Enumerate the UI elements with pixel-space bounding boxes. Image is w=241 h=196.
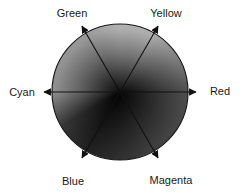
label-yellow: Yellow	[150, 7, 181, 19]
label-magenta: Magenta	[150, 174, 193, 186]
label-blue: Blue	[62, 175, 84, 187]
label-green: Green	[57, 7, 88, 19]
label-red: Red	[210, 85, 230, 97]
color-wheel-figure: Green Yellow Cyan Red Blue Magenta	[0, 0, 241, 196]
label-cyan: Cyan	[9, 86, 35, 98]
color-wheel-disc	[52, 24, 188, 160]
